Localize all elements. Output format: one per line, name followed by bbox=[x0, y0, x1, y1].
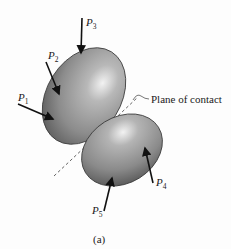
plane-of-contact-label: Plane of contact bbox=[151, 93, 222, 105]
force-label-p4: P4 bbox=[155, 176, 167, 191]
contact-bodies-figure: Plane of contact P3 P2 P1 P4 P5 (a) bbox=[0, 0, 231, 249]
diagram-svg: Plane of contact P3 P2 P1 P4 P5 (a) bbox=[0, 0, 231, 249]
force-label-p2: P2 bbox=[47, 49, 59, 64]
figure-caption: (a) bbox=[93, 233, 106, 246]
force-label-p3: P3 bbox=[85, 16, 97, 31]
force-label-p1: P1 bbox=[17, 91, 29, 106]
force-arrow-p3 bbox=[81, 18, 82, 53]
force-label-p5: P5 bbox=[91, 204, 103, 219]
